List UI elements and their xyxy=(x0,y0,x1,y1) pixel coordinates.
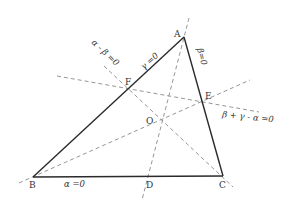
diagram-svg: A B C D E F O α =0 γ =0 β=0 α - β =0 β +… xyxy=(0,0,292,215)
side-BC xyxy=(33,176,223,177)
label-E: E xyxy=(205,91,212,101)
label-beta-gamma-minus-alpha: β + γ - α =0 xyxy=(221,109,275,125)
label-F: F xyxy=(125,77,131,87)
label-B: B xyxy=(29,180,36,190)
triangle-diagram: A B C D E F O α =0 γ =0 β=0 α - β =0 β +… xyxy=(0,0,292,215)
label-alpha-minus-beta: α - β =0 xyxy=(90,37,122,68)
label-O: O xyxy=(146,116,153,126)
line-CF xyxy=(104,66,233,187)
line-BE xyxy=(19,80,250,183)
label-D: D xyxy=(146,180,153,190)
label-alpha-zero: α =0 xyxy=(64,179,86,189)
label-C: C xyxy=(219,180,226,190)
line-EF xyxy=(57,76,259,112)
label-beta-zero: β=0 xyxy=(195,46,210,67)
label-A: A xyxy=(173,29,181,39)
line-AD xyxy=(142,18,189,200)
